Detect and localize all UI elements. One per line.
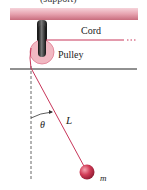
top-caption-cut: (support) xyxy=(40,0,77,4)
mass-label: m xyxy=(100,173,107,183)
cord-label: Cord xyxy=(81,25,101,36)
pulley-label: Pulley xyxy=(58,49,84,60)
support-rod-front xyxy=(38,25,46,57)
ceiling-support xyxy=(10,8,138,20)
pendulum-bob xyxy=(80,165,95,180)
pendulum-pulley-diagram: (support) Cord Pulley θ L m xyxy=(0,0,147,190)
pendulum-cord xyxy=(30,48,85,168)
diagram-canvas xyxy=(0,0,147,190)
angle-label: θ xyxy=(40,119,45,130)
angle-arc xyxy=(31,112,52,118)
length-label: L xyxy=(66,114,72,126)
angle-arrowhead xyxy=(49,110,53,114)
